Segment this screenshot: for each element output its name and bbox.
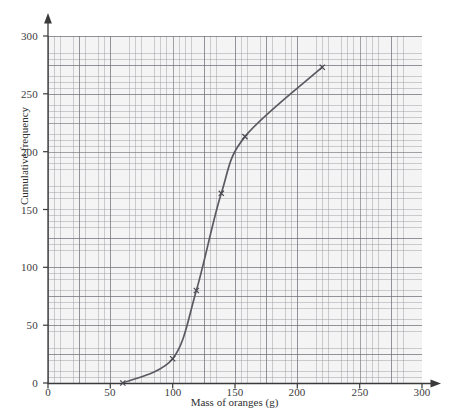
y-tick-label-50: 50: [14, 319, 38, 331]
cumulative-frequency-curve: [123, 67, 322, 383]
y-tick-label-100: 100: [14, 261, 38, 273]
data-point-marker: [242, 134, 247, 139]
cumulative-frequency-chart: 0 50 100 150 200 250 300 0 50 100 150 20…: [0, 0, 449, 414]
data-point-marker: [320, 65, 325, 70]
chart-overlay: [0, 0, 449, 414]
y-axis-ticks: [43, 36, 48, 383]
data-point-markers: [120, 65, 325, 386]
y-axis-title: Cumulative frequency: [18, 56, 30, 256]
data-point-marker: [170, 356, 175, 361]
y-tick-label-300: 300: [14, 30, 38, 42]
y-tick-label-0: 0: [14, 377, 38, 389]
arrow-up-icon: [44, 13, 52, 24]
arrow-right-icon: [431, 380, 442, 388]
x-axis-title: Mass of oranges (g): [0, 396, 449, 408]
x-axis-title-text: Mass of oranges (g): [191, 396, 279, 408]
